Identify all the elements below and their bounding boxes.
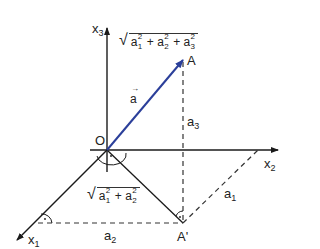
origin-label: O (95, 134, 105, 147)
x3-axis-label: x3 (92, 22, 104, 38)
x2-axis-label: x2 (264, 157, 276, 173)
angle-arc-aprime (176, 211, 183, 216)
a1-label: a1 (224, 187, 236, 203)
magnitude-3d-formula: √ a21 + a22 + a23 (119, 32, 198, 48)
a1-dashed-line (183, 150, 258, 223)
x1-axis-label: x1 (28, 233, 40, 249)
radical-sign: √ (87, 186, 96, 202)
right-angle-dot-origin (110, 155, 112, 157)
point-a-prime-label: A' (177, 230, 188, 243)
point-a-label: A (187, 54, 196, 67)
a3-label: a3 (187, 115, 199, 131)
right-angle-dot-x1 (44, 218, 46, 220)
magnitude-2d-formula: √ a21 + a22 (87, 186, 140, 202)
right-angle-dot-aprime (179, 216, 181, 218)
radical-sign: √ (119, 32, 128, 48)
a2-label: a2 (104, 229, 116, 245)
vector-a (107, 60, 183, 150)
vector-a-label: →a (130, 93, 137, 105)
